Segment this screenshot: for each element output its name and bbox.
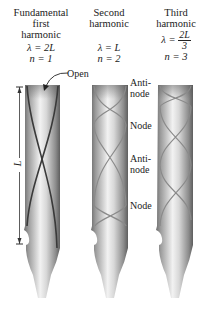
open-arrow-icon [46, 73, 68, 86]
node-label-top: Node [130, 120, 152, 131]
label-line: node [130, 164, 151, 175]
label-line: node [130, 88, 151, 99]
node-label-bottom: Node [130, 200, 152, 211]
antinode-label-top: Anti- node [130, 77, 151, 99]
pipes-diagram [0, 0, 205, 311]
label-line: Anti- [130, 153, 151, 164]
length-label: L [12, 161, 23, 167]
pipe-fundamental [24, 85, 60, 298]
pipe-third [156, 85, 193, 298]
label-line: Anti- [130, 77, 151, 88]
antinode-label-middle: Anti- node [130, 153, 151, 175]
open-label: Open [67, 68, 89, 79]
pipe-second [91, 85, 128, 298]
